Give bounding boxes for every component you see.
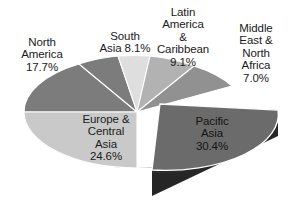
pie-label-pacific-asia: Pacific Asia 30.4% <box>176 115 248 152</box>
pie-label-latin-america-caribbean: Latin America & Caribbean 9.1% <box>148 6 218 68</box>
pie-chart-figure: North America 17.7% South Asia 8.1% Lati… <box>0 0 294 216</box>
pie-label-middle-east-north-africa: Middle East & North Africa 7.0% <box>222 22 290 84</box>
pie-label-europe-central-asia: Europe & Central Asia 24.6% <box>58 113 154 163</box>
pie-label-north-america: North America 17.7% <box>4 36 80 73</box>
